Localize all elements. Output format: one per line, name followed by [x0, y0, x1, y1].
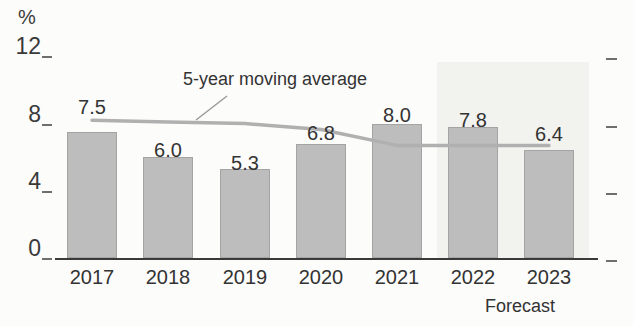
bar-2017 [67, 132, 117, 258]
y-tick-mark-left [42, 258, 52, 260]
y-tick-mark-left [42, 124, 52, 126]
bar-value-label: 8.0 [357, 105, 437, 125]
x-axis-line [55, 258, 598, 260]
y-tick-mark-left [42, 56, 52, 58]
bar-value-label: 7.8 [433, 110, 513, 130]
bar-2018 [143, 157, 193, 258]
y-tick-mark-right [606, 126, 617, 128]
bar-value-label: 7.5 [52, 97, 132, 117]
annotation-leader-line [196, 96, 227, 120]
y-axis-unit-label: % [18, 6, 36, 29]
bar-2023 [524, 150, 574, 258]
y-tick-mark-right [606, 260, 617, 262]
bar-value-label: 6.4 [509, 124, 589, 144]
y-tick-mark-left [42, 191, 52, 193]
x-axis-label-2023: 2023 [504, 266, 594, 288]
moving-average-annotation: 5-year moving average [183, 69, 367, 90]
bar-value-label: 6.0 [128, 140, 208, 160]
bar-value-label: 5.3 [205, 153, 285, 173]
bar-2021 [372, 124, 422, 258]
bar-value-label: 6.8 [281, 123, 361, 143]
bar-2020 [296, 144, 346, 258]
bar-2022 [448, 127, 498, 258]
y-tick-label: 4 [0, 170, 41, 192]
y-tick-mark-right [606, 58, 617, 60]
y-tick-mark-right [606, 193, 617, 195]
y-tick-label: 12 [0, 35, 41, 57]
bar-2019 [220, 169, 270, 258]
y-tick-label: 0 [0, 237, 41, 259]
bar-chart: % 04812 7.520176.020185.320196.820208.02… [0, 0, 634, 326]
y-tick-label: 8 [0, 103, 41, 125]
forecast-label: Forecast [460, 296, 580, 317]
